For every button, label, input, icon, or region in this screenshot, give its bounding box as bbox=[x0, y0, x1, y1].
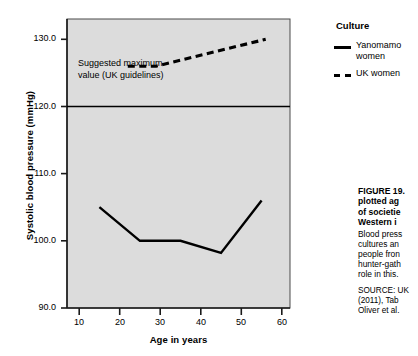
caption-body-line-1: Blood press bbox=[358, 229, 418, 239]
caption-heading-line-1: FIGURE 19. bbox=[358, 186, 418, 196]
reference-line-annotation: Suggested maximum value (UK guidelines) bbox=[78, 58, 164, 81]
figure-caption-body: Blood press cultures an people fron hunt… bbox=[358, 229, 418, 280]
x-axis-title: Age in years bbox=[67, 334, 290, 345]
legend-swatch-dashed-line-icon bbox=[334, 71, 351, 81]
x-tick-label-60: 60 bbox=[267, 317, 297, 327]
x-tick-label-40: 40 bbox=[186, 317, 216, 327]
caption-heading-line-4: Western i bbox=[358, 217, 418, 227]
legend-item-uk-women[interactable]: UK women bbox=[334, 68, 418, 81]
legend-label-line-1: Yanomamo bbox=[356, 40, 401, 51]
caption-body-line-3: people fron bbox=[358, 249, 418, 259]
reference-line-annotation-line-1: Suggested maximum bbox=[78, 58, 164, 70]
legend-item-label-uk-women: UK women bbox=[356, 68, 400, 79]
y-tick-label-100: 100.0 bbox=[14, 235, 56, 245]
figure-caption: FIGURE 19. plotted ag of societie Wester… bbox=[358, 186, 418, 316]
y-axis-ticks bbox=[61, 39, 67, 308]
caption-body-line-4: hunter-gath bbox=[358, 259, 418, 269]
legend-item-label-yanomamo-women: Yanomamo women bbox=[356, 40, 401, 61]
caption-source-line-3: Oliver et al. bbox=[358, 306, 418, 316]
caption-source-line-1: SOURCE: UK bbox=[358, 286, 418, 296]
x-tick-label-20: 20 bbox=[105, 317, 135, 327]
legend-swatch-solid-line-icon bbox=[334, 43, 351, 53]
reference-line-annotation-line-2: value (UK guidelines) bbox=[78, 70, 164, 82]
y-tick-label-110: 110.0 bbox=[14, 168, 56, 178]
y-tick-label-90: 90.0 bbox=[14, 302, 56, 312]
y-tick-label-130: 130.0 bbox=[14, 33, 56, 43]
legend-item-yanomamo-women[interactable]: Yanomamo women bbox=[334, 40, 418, 61]
caption-body-line-2: cultures an bbox=[358, 239, 418, 249]
y-tick-label-120: 120.0 bbox=[14, 101, 56, 111]
legend-title: Culture bbox=[334, 20, 418, 31]
caption-heading-line-2: plotted ag bbox=[358, 196, 418, 206]
x-axis-ticks bbox=[79, 308, 282, 315]
figure-root: 90.0 100.0 110.0 120.0 130.0 10 20 30 40… bbox=[0, 0, 418, 356]
caption-heading-line-3: of societie bbox=[358, 207, 418, 217]
legend-label-line-2: women bbox=[356, 51, 401, 62]
figure-caption-heading: FIGURE 19. plotted ag of societie Wester… bbox=[358, 186, 418, 228]
legend: Culture Yanomamo women UK women bbox=[334, 20, 418, 88]
x-tick-label-10: 10 bbox=[64, 317, 94, 327]
chart-container: 90.0 100.0 110.0 120.0 130.0 10 20 30 40… bbox=[0, 0, 300, 356]
x-tick-label-50: 50 bbox=[226, 317, 256, 327]
figure-caption-source: SOURCE: UK (2011), Tab Oliver et al. bbox=[358, 286, 418, 317]
x-tick-label-30: 30 bbox=[145, 317, 175, 327]
y-axis-title: Systolic blood pressure (mmHg) bbox=[24, 78, 35, 253]
caption-body-line-5: role in this. bbox=[358, 269, 418, 279]
caption-source-line-2: (2011), Tab bbox=[358, 296, 418, 306]
